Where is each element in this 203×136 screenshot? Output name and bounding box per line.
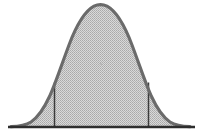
shaded-area-group <box>13 5 188 127</box>
shaded-area-under-curve <box>13 5 188 127</box>
scan-speck-artifact <box>100 63 103 66</box>
normal-distribution-figure: Bell-shaped normal density curve with th… <box>0 0 203 136</box>
bell-curve-chart <box>0 0 203 136</box>
